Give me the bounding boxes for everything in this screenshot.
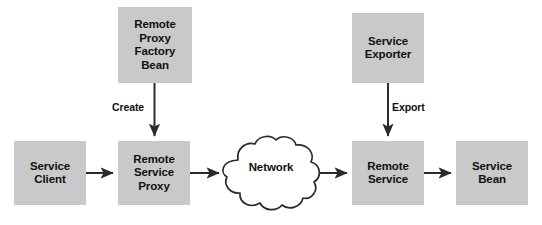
edge-label-export: Export bbox=[392, 101, 425, 113]
node-label-remote-proxy-factory-bean: Remote Proxy Factory Bean bbox=[134, 18, 176, 72]
node-label-remote-service: Remote Service bbox=[367, 160, 409, 187]
cloud-shape-icon bbox=[218, 132, 324, 214]
node-label-network: Network bbox=[218, 161, 324, 173]
node-service-exporter[interactable]: Service Exporter bbox=[352, 13, 424, 83]
node-label-service-bean: Service Bean bbox=[472, 160, 512, 187]
diagram-canvas: Remote Proxy Factory Bean Service Export… bbox=[0, 0, 542, 225]
node-remote-service-proxy[interactable]: Remote Service Proxy bbox=[118, 141, 190, 205]
node-remote-proxy-factory-bean[interactable]: Remote Proxy Factory Bean bbox=[118, 7, 192, 83]
node-label-service-client: Service Client bbox=[30, 160, 70, 187]
node-label-remote-service-proxy: Remote Service Proxy bbox=[133, 153, 175, 194]
node-remote-service[interactable]: Remote Service bbox=[352, 141, 424, 205]
node-network[interactable]: Network bbox=[218, 132, 324, 214]
node-service-bean[interactable]: Service Bean bbox=[456, 141, 528, 205]
node-label-service-exporter: Service Exporter bbox=[365, 35, 412, 62]
node-service-client[interactable]: Service Client bbox=[14, 141, 86, 205]
edge-label-create: Create bbox=[112, 101, 144, 113]
